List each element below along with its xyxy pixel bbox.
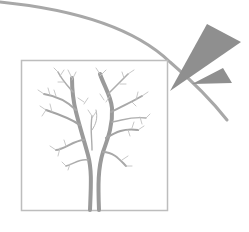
illustration-canvas	[0, 0, 249, 232]
lightning-wedge-icon	[170, 24, 241, 91]
picture-frame	[22, 61, 168, 211]
